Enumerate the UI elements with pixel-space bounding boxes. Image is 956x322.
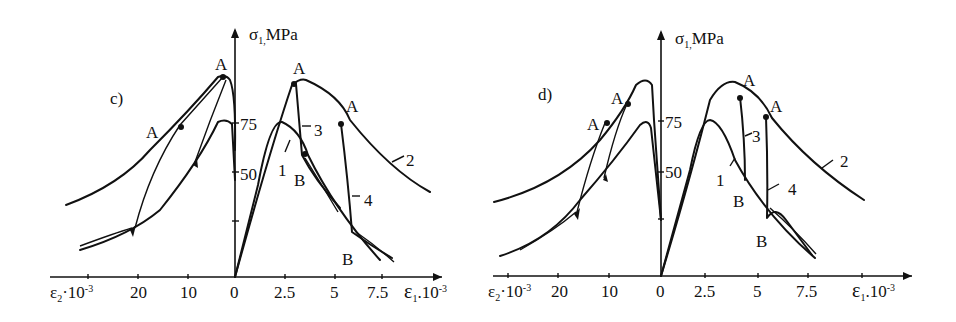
curve-label-3: 3 [314, 121, 323, 140]
curve-label-1: 1 [278, 161, 287, 180]
curve-label-2: 2 [406, 151, 415, 170]
point-A: A [346, 97, 359, 116]
point-B: B [756, 232, 767, 251]
x-tick-10: 10 [180, 283, 197, 302]
x-tick-5: 5 [330, 283, 339, 302]
y-axis-arrow-icon [231, 28, 239, 38]
x-tick-7.5: 7.5 [796, 282, 817, 301]
curve-3-e1 [740, 97, 745, 180]
x-tick-0: 0 [656, 282, 665, 301]
curve-label-1: 1 [716, 171, 725, 190]
x-axis-arrow-icon [433, 273, 442, 281]
x-axis-label-e2: ε2·10-3 [488, 282, 531, 303]
panel-d: d) σ1,MPa 75 50 20 10 0 2.5 5 7.5 ε2·10-… [488, 29, 912, 303]
x-axis-arrow-icon [903, 272, 912, 280]
point-A: A [293, 59, 306, 78]
panel-c: c) σ1,MPa 75 50 20 10 0 2.5 5 7.5 ε2·10-… [50, 25, 447, 304]
x-tick-10: 10 [601, 282, 618, 301]
point-A: A [770, 97, 783, 116]
curve-1-e2 [500, 122, 661, 256]
curve-label-2: 2 [840, 152, 849, 171]
point-A: A [743, 71, 756, 90]
y-tick-75: 75 [240, 115, 257, 134]
y-tick-50: 50 [665, 163, 682, 182]
x-axis-label-e1: ε1.10-3 [852, 279, 895, 303]
point-B: B [294, 171, 305, 190]
curve-label-3: 3 [752, 127, 761, 146]
figure: c) σ1,MPa 75 50 20 10 0 2.5 5 7.5 ε2·10-… [0, 0, 956, 322]
x-axis-label-e2: ε2·10-3 [50, 283, 93, 304]
panel-tag: d) [538, 85, 552, 104]
curve-2-e1 [235, 80, 430, 277]
curve-2-e2 [494, 81, 661, 221]
point-B: B [342, 250, 353, 269]
x-tick-20: 20 [130, 283, 147, 302]
x-tick-7.5: 7.5 [367, 283, 388, 302]
panel-tag: c) [110, 89, 123, 108]
point-B: B [733, 192, 744, 211]
x-ticks [508, 121, 862, 278]
curve-label-4: 4 [788, 180, 797, 199]
x-tick-0: 0 [230, 283, 239, 302]
point-A: A [146, 123, 159, 142]
y-tick-50: 50 [240, 165, 257, 184]
point-A: A [215, 55, 228, 74]
y-axis-label: σ1,MPa [249, 25, 298, 46]
point-A: A [611, 89, 624, 108]
x-tick-2.5: 2.5 [694, 282, 715, 301]
x-axis-label-e1: ε1.10-3 [404, 280, 447, 304]
y-axis-arrow-icon [657, 30, 665, 40]
y-tick-75: 75 [665, 113, 682, 132]
x-tick-5: 5 [753, 282, 762, 301]
curve-3-e1-double [305, 158, 338, 212]
point-A: A [587, 115, 600, 134]
x-tick-2.5: 2.5 [274, 283, 295, 302]
curve-label-4: 4 [364, 191, 373, 210]
x-tick-20: 20 [551, 282, 568, 301]
curve-1-e2-double [80, 228, 132, 246]
y-axis-label: σ1,MPa [675, 29, 724, 50]
